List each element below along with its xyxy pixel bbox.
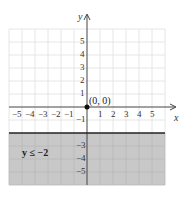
y-tick-label: 3 bbox=[80, 62, 85, 72]
x-tick-label: 5 bbox=[150, 109, 155, 119]
x-tick-label: −3 bbox=[38, 109, 48, 119]
x-tick-label: 2 bbox=[111, 109, 116, 119]
x-tick-label: −5 bbox=[12, 109, 22, 119]
origin-label: (0, 0) bbox=[89, 95, 111, 107]
x-tick-label: −2 bbox=[51, 109, 61, 119]
y-tick-label: −1 bbox=[76, 114, 86, 124]
coordinate-plane: y x (0, 0) −5 −4 −3 −2 −1 1 2 3 4 5 5 4 … bbox=[0, 0, 188, 198]
x-tick-label: 1 bbox=[98, 109, 103, 119]
x-axis-label: x bbox=[173, 112, 179, 123]
y-tick-label: 1 bbox=[80, 88, 85, 98]
y-tick-labels: 5 4 3 2 1 −1 −3 −4 −5 bbox=[76, 36, 86, 176]
x-tick-label: −4 bbox=[25, 109, 35, 119]
y-tick-label: 5 bbox=[80, 36, 85, 46]
y-tick-label: 2 bbox=[80, 75, 85, 85]
y-tick-label: 4 bbox=[80, 49, 85, 59]
y-tick-label: −4 bbox=[76, 153, 86, 163]
y-tick-label: −3 bbox=[76, 140, 86, 150]
x-tick-label: 3 bbox=[124, 109, 129, 119]
x-tick-label: −1 bbox=[64, 109, 74, 119]
y-tick-label: −5 bbox=[76, 166, 86, 176]
inequality-label: y ≤ −2 bbox=[22, 147, 48, 158]
y-axis-label: y bbox=[77, 11, 83, 22]
x-tick-label: 4 bbox=[137, 109, 142, 119]
